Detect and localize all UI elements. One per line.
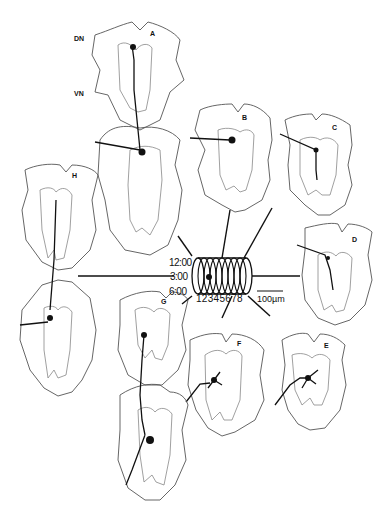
panel-label-f: F [237,340,241,347]
cylinder-schematic [192,258,252,294]
panel-d-drawing [297,223,372,325]
panel-label-a: A [150,30,155,37]
panel-label-c: C [332,124,337,131]
panel-a-drawing [92,22,184,255]
segment-numbers: 12345678 [196,293,243,304]
neuron-figure [0,0,387,516]
panel-b-drawing [190,104,272,212]
panel-c-drawing [280,114,352,215]
panel-e-drawing [275,333,346,430]
panel-label-e: E [324,342,329,349]
panel-f-drawing [186,334,264,436]
panel-label-d: D [352,236,357,243]
ventral-nerve-label: VN [74,90,84,97]
clock-label-6: 6:00 [169,286,186,297]
panel-label-g: G [161,298,166,305]
scale-bar-label: 100µm [257,294,285,304]
panel-g-drawing [118,291,188,500]
clock-label-3: 3:00 [170,271,187,282]
dorsal-nerve-label: DN [74,35,84,42]
clock-label-12: 12:00 [169,257,192,268]
panel-label-h: H [72,172,77,179]
recording-site-dot [206,274,212,280]
panel-label-b: B [242,114,247,121]
panel-h-drawing [20,164,98,396]
